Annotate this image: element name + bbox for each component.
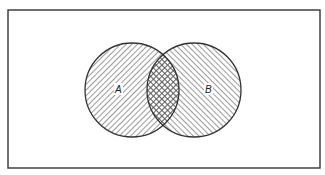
venn-diagram: A B [0, 0, 325, 175]
set-a-label: A [114, 84, 122, 95]
set-b-label: B [205, 84, 212, 95]
